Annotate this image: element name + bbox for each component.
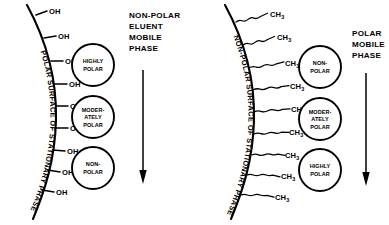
functional-group-label: OH: [56, 188, 68, 197]
mobile-phase-header-line: PHASE: [352, 51, 381, 60]
mobile-phase-header-line: PHASE: [129, 44, 158, 53]
functional-group-item: OH: [53, 147, 79, 156]
functional-group-item: CH3: [252, 151, 299, 161]
chromatography-phase-diagram: POLAR SURFACE OF STATIONARY PHASE OH OH …: [0, 0, 389, 225]
functional-group-label: CH3: [285, 151, 299, 161]
functional-group-label: CH3: [270, 10, 284, 20]
panel-normal-phase: POLAR SURFACE OF STATIONARY PHASE OH OH …: [27, 5, 180, 219]
alkyl-chain: [253, 86, 289, 90]
functional-group-label: OH: [58, 32, 70, 41]
stationary-phase-surface-label-path: POLAR SURFACE OF STATIONARY PHASE: [28, 49, 57, 213]
functional-group-label: CH3: [277, 33, 291, 43]
analyte-circle-label: POLAR: [83, 122, 103, 128]
functional-group-item: OH: [36, 7, 61, 16]
analyte-circle-label: POLAR: [83, 66, 103, 72]
functional-group-bond: [53, 150, 65, 151]
functional-group-bond: [44, 36, 56, 38]
functional-group-label: CH3: [275, 193, 289, 203]
functional-group-label: CH3: [281, 172, 295, 182]
analyte-circle-label: ATELY: [84, 114, 102, 120]
analyte-circle-non-polar: NON- POLAR: [299, 46, 341, 88]
functional-group-item: CH3: [247, 172, 295, 182]
analyte-circle-group: NON- POLAR MODER- ATELY POLAR HIGHLY POL…: [299, 46, 341, 191]
mobile-phase-header: NON-POLAR ELUENT MOBILE PHASE: [129, 11, 180, 53]
analyte-circle-highly-polar: HIGHLY POLAR: [299, 149, 341, 191]
analyte-circle-label: POLAR: [83, 169, 103, 175]
functional-group-item: CH3: [253, 82, 304, 92]
mobile-phase-header: POLAR MOBILE PHASE: [352, 29, 385, 60]
alkyl-chain: [254, 132, 289, 134]
functional-group-item: OH: [48, 168, 74, 177]
analyte-circle-label: ATELY: [311, 116, 329, 122]
flow-arrow-head: [139, 170, 146, 184]
functional-group-label: CH3: [285, 59, 299, 69]
analyte-circle-moderately-polar: MODER- ATELY POLAR: [72, 96, 114, 138]
functional-group-item: OH: [42, 188, 68, 197]
analyte-circle-label: POLAR: [310, 171, 330, 177]
functional-group-item: CH3: [254, 105, 305, 115]
analyte-circle-label: HIGHLY: [83, 58, 104, 64]
functional-group-item: CH3: [249, 59, 299, 69]
analyte-circle-non-polar: NON- POLAR: [72, 147, 114, 189]
analyte-circle-label: HIGHLY: [310, 163, 331, 169]
mobile-phase-header-line: MOBILE: [352, 40, 385, 49]
analyte-circle-moderately-polar: MODER- ATELY POLAR: [299, 98, 341, 140]
mobile-phase-flow-arrow: [362, 73, 369, 186]
analyte-circle-label: NON-: [86, 161, 100, 167]
analyte-circle-label: POLAR: [310, 68, 330, 74]
functional-group-bond: [36, 11, 47, 15]
mobile-phase-header-line: MOBILE: [129, 33, 162, 42]
stationary-phase-surface-label: NON-POLAR SURFACE OF STATIONARY PHASE: [225, 34, 256, 218]
mobile-phase-header-line: NON-POLAR: [129, 11, 180, 20]
mobile-phase-flow-arrow: [139, 70, 146, 184]
mobile-phase-header-line: ELUENT: [129, 22, 163, 31]
functional-group-item: CH3: [241, 193, 289, 203]
functional-group-item: OH: [55, 80, 81, 89]
functional-group-item: CH3: [236, 10, 284, 22]
alkyl-chain: [254, 109, 290, 112]
mobile-phase-header-line: POLAR: [352, 29, 382, 38]
functional-group-item: OH: [44, 32, 70, 41]
functional-group-label: CH3: [290, 82, 304, 92]
alkyl-chain: [241, 194, 274, 197]
functional-group-item: CH3: [254, 128, 303, 138]
analyte-circle-highly-polar: HIGHLY POLAR: [72, 44, 114, 86]
stationary-phase-surface-label-path: NON-POLAR SURFACE OF STATIONARY PHASE: [225, 34, 256, 218]
alkyl-chain: [247, 174, 280, 176]
analyte-circle-label: POLAR: [310, 124, 330, 130]
alkyl-chain: [249, 62, 284, 68]
functional-group-item: CH3: [243, 33, 291, 45]
analyte-circle-label: MODER-: [82, 107, 105, 113]
analyte-circle-label: MODER-: [309, 109, 332, 115]
diagram-canvas: POLAR SURFACE OF STATIONARY PHASE OH OH …: [0, 0, 389, 225]
analyte-circle-label: NON-: [313, 60, 327, 66]
alkyl-chain: [243, 37, 275, 45]
panel-reversed-phase: NON-POLAR SURFACE OF STATIONARY PHASE CH…: [225, 5, 386, 219]
alkyl-chain: [252, 154, 285, 156]
flow-arrow-head: [362, 172, 369, 186]
alkyl-chain: [236, 13, 268, 22]
functional-group-label: OH: [49, 7, 61, 16]
stationary-phase-surface-label: POLAR SURFACE OF STATIONARY PHASE: [28, 49, 57, 213]
analyte-circle-group: HIGHLY POLAR MODER- ATELY POLAR NON- POL…: [72, 44, 114, 189]
